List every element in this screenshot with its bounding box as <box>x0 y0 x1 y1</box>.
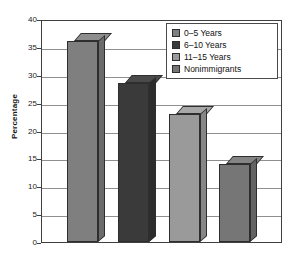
bar-front-face <box>67 41 98 242</box>
legend-label: Nonimmigrants <box>184 65 241 74</box>
legend-item: Nonimmigrants <box>172 63 273 75</box>
y-axis-tick-label: 5 <box>3 211 37 219</box>
bar <box>67 33 105 242</box>
legend-label: 11–15 Years <box>184 53 231 62</box>
y-axis-tick-label: 20 <box>3 128 37 136</box>
bar <box>219 156 257 242</box>
y-axis-tick-mark <box>37 243 41 244</box>
y-axis-tick-label: 0 <box>3 239 37 247</box>
legend-item: 0–5 Years <box>172 27 273 39</box>
bar <box>118 75 156 242</box>
bar-top-face <box>226 156 264 164</box>
bar-side-face <box>200 108 207 242</box>
bar-side-face <box>98 35 105 242</box>
legend-item: 6–10 Years <box>172 39 273 51</box>
chart-legend: 0–5 Years6–10 Years11–15 YearsNonimmigra… <box>166 23 278 79</box>
bar-top-face <box>74 33 112 41</box>
legend-swatch <box>172 29 180 37</box>
y-axis-label: Percentage <box>10 77 19 157</box>
legend-item: 11–15 Years <box>172 51 273 63</box>
bar-front-face <box>118 83 149 242</box>
y-axis-tick-label: 30 <box>3 72 37 80</box>
y-axis-tick-label: 40 <box>3 16 37 24</box>
y-axis-tick-label: 15 <box>3 155 37 163</box>
bar-side-face <box>250 158 257 242</box>
bar-front-face <box>169 114 200 242</box>
y-axis-tick-label: 25 <box>3 100 37 108</box>
bar-chart-figure: Percentage 4035302520151050 0–5 Years6–1… <box>0 0 293 261</box>
bar-top-face <box>125 75 163 83</box>
legend-swatch <box>172 41 180 49</box>
y-axis-tick-label: 10 <box>3 183 37 191</box>
bar-side-face <box>149 77 156 242</box>
bar-front-face <box>219 164 250 242</box>
bar-top-face <box>176 106 214 114</box>
legend-label: 6–10 Years <box>184 41 227 50</box>
legend-swatch <box>172 53 180 61</box>
legend-label: 0–5 Years <box>184 29 222 38</box>
bar <box>169 106 207 242</box>
legend-swatch <box>172 65 180 73</box>
y-axis-tick-label: 35 <box>3 44 37 52</box>
